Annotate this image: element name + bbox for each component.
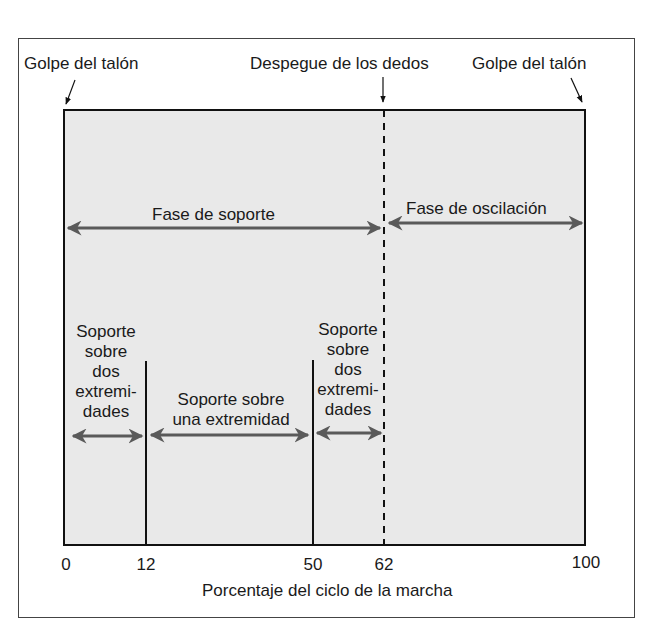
toe-off-label: Despegue de los dedos bbox=[250, 54, 429, 74]
double-support-label-1: Soporte sobre dos extremi- dades bbox=[66, 322, 146, 422]
double-support-label-2: Soporte sobre dos extremi- dades bbox=[308, 320, 388, 420]
tick-12: 12 bbox=[137, 555, 156, 575]
x-axis-label: Porcentaje del ciclo de la marcha bbox=[202, 581, 452, 601]
tick-62: 62 bbox=[375, 555, 394, 575]
stance-phase-label: Fase de soporte bbox=[152, 205, 275, 225]
tick-50: 50 bbox=[304, 555, 323, 575]
tick-0: 0 bbox=[61, 555, 70, 575]
swing-phase-label: Fase de oscilación bbox=[406, 199, 547, 219]
single-support-label: Soporte sobre una extremidad bbox=[150, 390, 312, 430]
heel-strike-label-start: Golpe del talón bbox=[24, 54, 138, 74]
tick-100: 100 bbox=[572, 553, 600, 573]
heel-strike-label-end: Golpe del talón bbox=[472, 54, 586, 74]
